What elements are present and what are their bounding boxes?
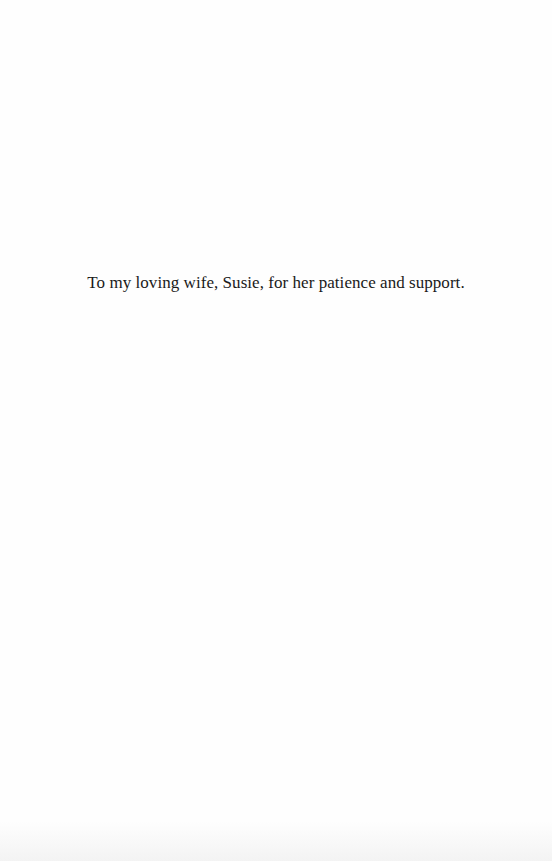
book-page: To my loving wife, Susie, for her patien… [0,0,552,861]
dedication-text: To my loving wife, Susie, for her patien… [0,273,552,293]
